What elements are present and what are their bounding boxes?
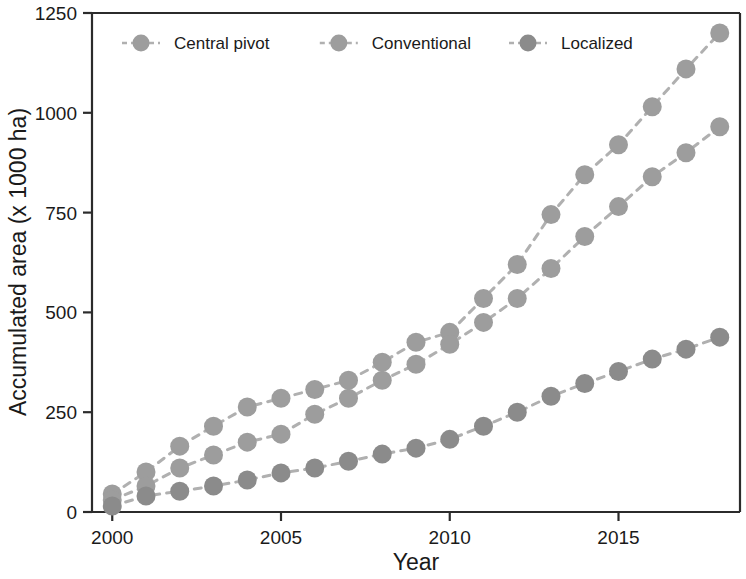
data-point bbox=[238, 471, 257, 490]
legend-label: Central pivot bbox=[174, 34, 270, 53]
legend-item-conventional[interactable]: Conventional bbox=[320, 34, 471, 53]
chart-figure: 025050075010001250 2000200520102015 Cent… bbox=[0, 0, 746, 579]
x-axis: 2000200520102015 bbox=[91, 512, 640, 548]
data-point bbox=[542, 259, 561, 278]
data-point bbox=[508, 289, 527, 308]
data-point bbox=[643, 167, 662, 186]
data-point bbox=[407, 333, 426, 352]
data-point bbox=[170, 437, 189, 456]
chart-legend: Central pivotConventionalLocalized bbox=[122, 34, 633, 53]
data-point bbox=[474, 313, 493, 332]
x-axis-title: Year bbox=[393, 549, 440, 575]
data-point bbox=[204, 477, 223, 496]
data-point bbox=[238, 398, 257, 417]
x-tick-label: 2005 bbox=[260, 527, 302, 548]
data-point bbox=[103, 497, 122, 516]
data-point bbox=[609, 362, 628, 381]
data-point bbox=[710, 328, 729, 347]
data-point bbox=[508, 403, 527, 422]
data-point bbox=[204, 445, 223, 464]
x-tick-label: 2000 bbox=[91, 527, 133, 548]
data-point bbox=[643, 350, 662, 369]
data-point bbox=[272, 389, 291, 408]
data-point bbox=[373, 353, 392, 372]
legend-label: Localized bbox=[561, 34, 633, 53]
data-point bbox=[575, 374, 594, 393]
y-axis: 025050075010001250 bbox=[35, 3, 92, 523]
data-point bbox=[339, 452, 358, 471]
data-point bbox=[170, 459, 189, 478]
data-point bbox=[440, 335, 459, 354]
legend-label: Conventional bbox=[372, 34, 471, 53]
data-point bbox=[609, 135, 628, 154]
data-point bbox=[137, 487, 156, 506]
data-point bbox=[204, 417, 223, 436]
data-point bbox=[575, 165, 594, 184]
data-point bbox=[677, 340, 696, 359]
legend-item-central-pivot[interactable]: Central pivot bbox=[122, 34, 270, 53]
legend-sample-marker bbox=[133, 35, 150, 52]
data-point bbox=[238, 433, 257, 452]
plot-frame bbox=[92, 13, 740, 512]
legend-sample-marker bbox=[330, 35, 347, 52]
y-tick-label: 500 bbox=[45, 302, 77, 323]
data-series-group bbox=[103, 23, 730, 515]
y-tick-label: 1250 bbox=[35, 3, 77, 24]
y-tick-label: 1000 bbox=[35, 103, 77, 124]
data-point bbox=[407, 355, 426, 374]
data-point bbox=[474, 417, 493, 436]
data-point bbox=[508, 255, 527, 274]
y-tick-label: 0 bbox=[66, 502, 77, 523]
line-chart: 025050075010001250 2000200520102015 Cent… bbox=[0, 0, 746, 579]
data-point bbox=[474, 289, 493, 308]
data-point bbox=[609, 197, 628, 216]
data-point bbox=[575, 227, 594, 246]
legend-item-localized[interactable]: Localized bbox=[509, 34, 633, 53]
data-point bbox=[272, 425, 291, 444]
series-central-pivot bbox=[103, 23, 730, 503]
data-point bbox=[407, 439, 426, 458]
data-point bbox=[373, 445, 392, 464]
y-tick-label: 250 bbox=[45, 402, 77, 423]
data-point bbox=[710, 23, 729, 42]
data-point bbox=[170, 482, 189, 501]
data-point bbox=[542, 205, 561, 224]
data-point bbox=[440, 430, 459, 449]
data-point bbox=[677, 59, 696, 78]
y-tick-label: 750 bbox=[45, 203, 77, 224]
data-point bbox=[542, 387, 561, 406]
series-line bbox=[112, 33, 720, 494]
y-axis-title: Accumulated area (x 1000 ha) bbox=[5, 108, 31, 416]
data-point bbox=[305, 380, 324, 399]
legend-sample-marker bbox=[520, 35, 537, 52]
data-point bbox=[272, 463, 291, 482]
x-tick-label: 2015 bbox=[597, 527, 639, 548]
data-point bbox=[710, 117, 729, 136]
data-point bbox=[339, 371, 358, 390]
data-point bbox=[373, 371, 392, 390]
x-tick-label: 2010 bbox=[429, 527, 471, 548]
data-point bbox=[305, 405, 324, 424]
data-point bbox=[643, 97, 662, 116]
data-point bbox=[677, 143, 696, 162]
data-point bbox=[339, 389, 358, 408]
data-point bbox=[305, 459, 324, 478]
